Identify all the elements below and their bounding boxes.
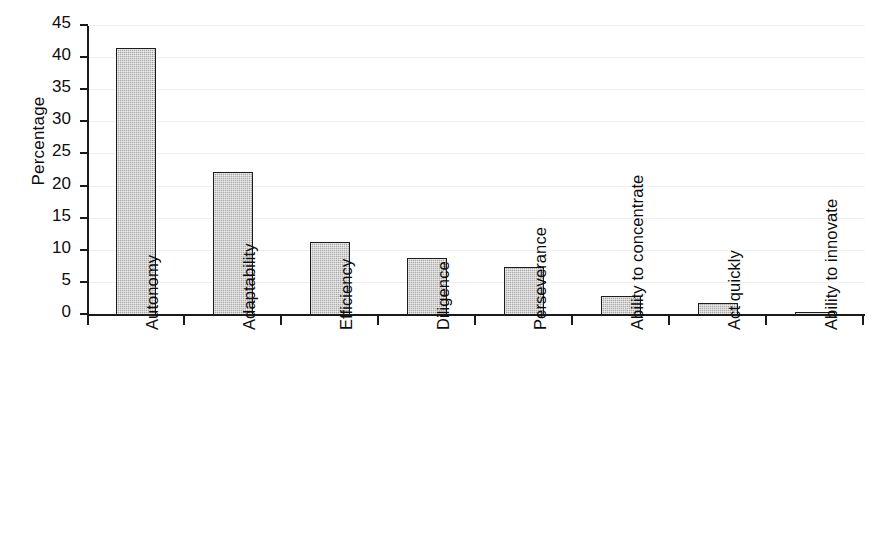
category-label: Autonomy [143,255,161,330]
y-axis-tick: 20 [80,185,88,187]
y-axis-tick-label: 0 [37,302,71,321]
y-axis-tick: 25 [80,152,88,154]
y-axis-tick: 5 [80,281,88,283]
y-axis-tick-label: 15 [37,206,71,225]
y-axis-tick-label: 10 [37,238,71,257]
y-axis-line [87,26,89,316]
x-axis-tick [183,315,185,325]
x-axis-tick [765,315,767,325]
x-axis-tick [87,315,89,325]
category-label: Efficiency [337,259,355,330]
x-axis-tick [862,315,864,325]
y-axis-tick-label: 45 [37,13,71,32]
category-label: Diligence [434,261,452,330]
y-axis-tick-label: 30 [37,109,71,128]
y-axis-tick: 15 [80,217,88,219]
gridline [89,250,865,251]
category-label: Adaptability [240,243,258,330]
y-axis-tick-label: 25 [37,141,71,160]
x-axis-tick [571,315,573,325]
x-axis-line [87,314,865,316]
y-axis-tick: 10 [80,249,88,251]
gridline [89,153,865,154]
x-axis-tick [474,315,476,325]
gridline [89,282,865,283]
gridline [89,89,865,90]
gridline [89,25,865,26]
gridline [89,218,865,219]
category-label: Perseverance [531,227,549,330]
gridline [89,57,865,58]
y-axis-tick: 40 [80,56,88,58]
gridline [89,186,865,187]
plot-area: 051015202530354045 [87,26,865,315]
y-axis-tick: 45 [80,24,88,26]
category-label: Act quickly [725,250,743,330]
y-axis-tick-label: 5 [37,270,71,289]
category-label: Ability to innovate [822,199,840,330]
y-axis-tick-label: 20 [37,174,71,193]
x-axis-tick [668,315,670,325]
y-axis-tick-label: 35 [37,77,71,96]
x-axis-tick [377,315,379,325]
x-axis-tick [280,315,282,325]
y-axis-tick-label: 40 [37,45,71,64]
bar-chart: Percentage 051015202530354045 AutonomyAd… [0,0,871,545]
y-axis-tick: 30 [80,120,88,122]
gridline [89,121,865,122]
category-label: Ability to concentrate [628,175,646,330]
y-axis-tick: 35 [80,88,88,90]
